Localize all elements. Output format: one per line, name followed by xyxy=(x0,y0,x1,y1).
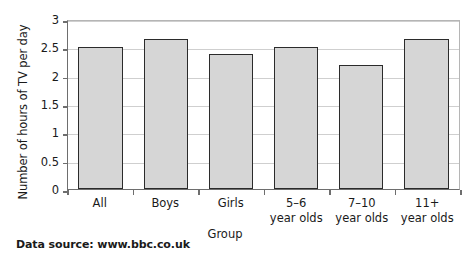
y-tick-label: 1.5 xyxy=(41,100,59,112)
x-tick-label: Boys xyxy=(133,196,199,226)
bar-chart-figure: Number of hours of TV per day 00.511.522… xyxy=(0,0,474,264)
x-tick-label-line1: Boys xyxy=(151,196,179,210)
source-caption: Data source: www.bbc.co.uk xyxy=(16,238,190,251)
y-tick-label: 1 xyxy=(52,129,59,141)
bar xyxy=(404,39,448,189)
x-tick-label: 7–10year olds xyxy=(329,196,395,226)
bar xyxy=(274,47,318,189)
x-tick-label-line1: 5–6 xyxy=(286,196,306,210)
x-tick-mark xyxy=(329,190,331,195)
x-axis-ticks xyxy=(67,190,460,195)
bar xyxy=(144,39,188,189)
bar-slot xyxy=(264,21,329,189)
x-tick-label-line1: Girls xyxy=(218,196,244,210)
y-tick-label: 0 xyxy=(52,185,59,197)
bar-series xyxy=(68,21,459,189)
x-tick-label: 5–6year olds xyxy=(264,196,330,226)
bar-slot xyxy=(329,21,394,189)
x-tick-mark xyxy=(264,190,266,195)
x-tick-label-line1: 7–10 xyxy=(348,196,376,210)
x-tick-label: 11+year olds xyxy=(395,196,461,226)
x-tick-label: All xyxy=(67,196,133,226)
y-tick-mark xyxy=(63,78,68,80)
y-axis-title: Number of hours of TV per day xyxy=(16,17,30,207)
x-tick-mark xyxy=(67,190,69,195)
y-tick-mark xyxy=(63,49,68,51)
x-tick-mark xyxy=(460,190,462,195)
y-tick-label: 2.5 xyxy=(41,44,59,56)
x-axis-tick-labels: AllBoysGirls5–6year olds7–10year olds11+… xyxy=(67,196,460,226)
x-tick-label-line2: year olds xyxy=(264,211,330,226)
x-tick-mark xyxy=(133,190,135,195)
y-tick-label: 3 xyxy=(52,15,59,27)
y-tick-mark xyxy=(63,21,68,23)
x-tick-label-line1: All xyxy=(93,196,107,210)
y-tick-mark xyxy=(63,134,68,136)
x-tick-mark xyxy=(198,190,200,195)
plot-area: 00.511.522.53 xyxy=(67,20,460,190)
y-tick-label: 0.5 xyxy=(41,157,59,169)
bar-slot xyxy=(133,21,198,189)
x-tick-label-line2: year olds xyxy=(395,211,461,226)
x-tick-label-line1: 11+ xyxy=(415,196,439,210)
bar xyxy=(78,47,122,189)
y-tick-mark xyxy=(63,163,68,165)
bar-slot xyxy=(394,21,459,189)
x-tick-mark xyxy=(395,190,397,195)
x-tick-label-line2: year olds xyxy=(329,211,395,226)
y-tick-mark xyxy=(63,106,68,108)
bar xyxy=(209,54,253,189)
bar xyxy=(339,65,383,189)
bar-slot xyxy=(68,21,133,189)
x-tick-label: Girls xyxy=(198,196,264,226)
bar-slot xyxy=(198,21,263,189)
y-tick-label: 2 xyxy=(52,72,59,84)
